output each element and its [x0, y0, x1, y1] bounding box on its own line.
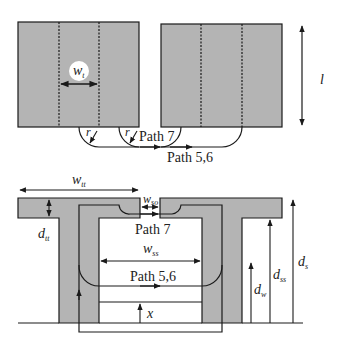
- slot-depth-label: ds: [298, 254, 308, 271]
- radius-label-2: r: [125, 125, 130, 139]
- radius-arrow-1: [90, 131, 97, 143]
- radius-arrow-2: [130, 131, 137, 143]
- flux-path-diagram: wt l r r Path 7 Path 5,6 wso: [0, 0, 344, 346]
- radius-label-1: r: [86, 125, 91, 139]
- path-56-top-label: Path 5,6: [167, 150, 213, 165]
- path-56-label: Path 5,6: [130, 269, 176, 284]
- slot-side-depth-label: dss: [273, 267, 286, 284]
- slot-width-label: wss: [143, 241, 159, 258]
- slot-opening-label: wso: [143, 192, 158, 207]
- path-7-label: Path 7: [135, 222, 170, 237]
- length-label: l: [320, 72, 324, 87]
- path-7-top-label: Path 7: [139, 129, 174, 144]
- cross-section-view: wso wtt dtt Path 7 wss Path 5,6 x dw dss…: [18, 172, 308, 332]
- top-view: wt l r r Path 7 Path 5,6: [18, 22, 324, 165]
- position-label: x: [146, 306, 154, 321]
- winding-depth-label: dw: [254, 282, 267, 299]
- tooth-tip-depth-label: dtt: [38, 226, 50, 243]
- right-tooth-block: [161, 24, 282, 127]
- tooth-tip-width-label: wtt: [72, 172, 87, 189]
